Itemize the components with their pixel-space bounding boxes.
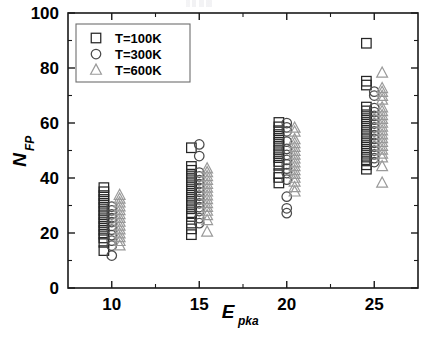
x-axis-title: Epka xyxy=(222,301,259,328)
data-point-square xyxy=(187,230,197,240)
legend-label: T=600K xyxy=(115,63,162,78)
y-tick-label: 60 xyxy=(40,114,59,133)
y-tick-label: 40 xyxy=(40,169,59,188)
data-point-triangle xyxy=(202,226,213,236)
x-tick-label: 10 xyxy=(102,295,121,314)
y-tick-label: 0 xyxy=(50,279,59,298)
svg-text:FP: FP xyxy=(23,135,37,151)
x-tick-label: 20 xyxy=(277,295,296,314)
svg-text:E: E xyxy=(222,301,236,322)
y-tick-label: 100 xyxy=(31,4,59,23)
data-point-square xyxy=(362,39,372,49)
y-tick-label: 80 xyxy=(40,59,59,78)
data-point-triangle xyxy=(377,177,388,187)
data-point-triangle xyxy=(377,67,388,77)
svg-text:pka: pka xyxy=(237,314,259,328)
x-tick-label: 25 xyxy=(365,295,384,314)
y-tick-label: 20 xyxy=(40,224,59,243)
data-point-square xyxy=(362,76,372,86)
chart-figure: 02040608010010152025EpkaNFP T=100KT=300K… xyxy=(0,0,434,339)
x-tick-label: 15 xyxy=(190,295,209,314)
data-point-square xyxy=(362,80,372,90)
legend: T=100KT=300KT=600K xyxy=(76,24,190,82)
scatter-plot-canvas: 02040608010010152025EpkaNFP T=100KT=300K… xyxy=(0,0,434,339)
legend-label: T=300K xyxy=(115,47,162,62)
svg-text:N: N xyxy=(9,152,30,167)
series-circle xyxy=(107,87,379,260)
y-axis-title: NFP xyxy=(9,135,37,167)
series-triangle xyxy=(114,67,387,250)
legend-label: T=100K xyxy=(115,31,162,46)
data-point-circle xyxy=(195,151,205,161)
